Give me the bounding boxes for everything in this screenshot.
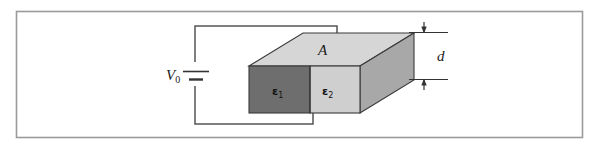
dielectric-2-face	[310, 66, 360, 113]
area-label: A	[317, 42, 328, 58]
figure-container: V0 ε1 ε2 A d	[0, 0, 601, 147]
voltage-source-subscript: 0	[175, 74, 180, 85]
dielectric-1-subscript: 1	[278, 91, 283, 100]
capacitor-diagram: V0 ε1 ε2 A d	[0, 0, 601, 147]
thickness-label: d	[437, 48, 445, 64]
dielectric-1-face	[249, 66, 310, 113]
dielectric-2-subscript: 2	[328, 91, 333, 100]
